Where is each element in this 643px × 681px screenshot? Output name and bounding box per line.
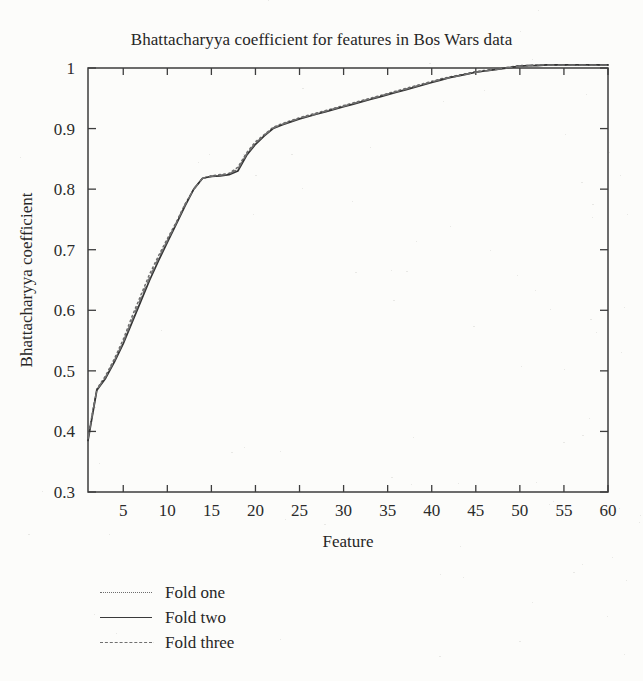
x-axis-tick-label: 40 (423, 501, 440, 520)
x-axis-tick-label: 45 (467, 501, 484, 520)
y-axis-tick-label: 0.3 (54, 483, 75, 502)
y-axis-tick-label: 0.4 (54, 422, 76, 441)
legend-swatch-dotted-line-icon (100, 586, 152, 600)
y-axis-title: Bhattacharyya coefficient (17, 192, 36, 367)
x-axis-tick-label: 15 (203, 501, 220, 520)
x-axis-tick-label: 25 (291, 501, 308, 520)
y-axis-tick-label: 0.9 (54, 120, 75, 139)
legend-swatch-dashed-line-icon (100, 636, 152, 650)
x-axis-tick-label: 55 (555, 501, 572, 520)
y-axis-tick-label: 1 (67, 59, 76, 78)
legend-swatch-solid-line-icon (100, 611, 152, 625)
series-line-fold-three (88, 65, 608, 439)
x-axis-tick-label: 5 (119, 501, 128, 520)
y-axis-tick-label: 0.8 (54, 180, 75, 199)
x-axis-tick-label: 60 (600, 501, 617, 520)
y-axis-tick-label: 0.6 (54, 301, 75, 320)
legend-label-fold-three: Fold three (165, 633, 234, 653)
series-line-fold-two (88, 65, 608, 441)
chart-plot: 510152025303540455055600.30.40.50.60.70.… (0, 0, 643, 681)
x-axis-tick-label: 35 (379, 501, 396, 520)
x-axis-tick-label: 20 (247, 501, 264, 520)
x-axis-title: Feature (323, 532, 374, 551)
legend-item-fold-three: Fold three (100, 630, 400, 655)
chart-legend: Fold one Fold two Fold three (100, 580, 400, 655)
legend-label-fold-two: Fold two (165, 608, 226, 628)
y-axis-tick-label: 0.5 (54, 362, 75, 381)
figure-canvas: Bhattacharyya coefficient for features i… (0, 0, 643, 681)
x-axis-tick-label: 50 (511, 501, 528, 520)
legend-label-fold-one: Fold one (165, 583, 225, 603)
plot-frame (88, 68, 608, 492)
series-line-fold-one (88, 65, 608, 438)
x-axis-tick-label: 10 (159, 501, 176, 520)
legend-item-fold-one: Fold one (100, 580, 400, 605)
x-axis-tick-label: 30 (335, 501, 352, 520)
legend-item-fold-two: Fold two (100, 605, 400, 630)
y-axis-tick-label: 0.7 (54, 241, 76, 260)
